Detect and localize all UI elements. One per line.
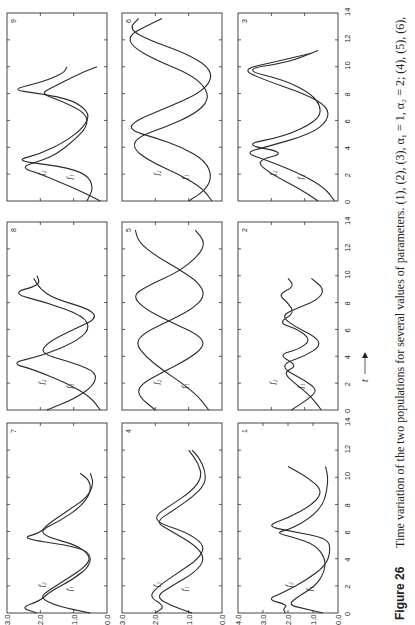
label-f1: f₁ [296, 383, 305, 388]
x-tick-label: 12 [343, 244, 352, 252]
label-f2: f₂ [152, 170, 161, 175]
label-f2: f₂ [268, 379, 277, 384]
t-axis-symbol: t [359, 379, 370, 382]
label-f1: f₁ [180, 383, 189, 388]
x-tick-label: 6 [343, 119, 352, 123]
panel-number: 4 [125, 429, 132, 433]
plot-frame [238, 13, 338, 201]
label-f1: f₁ [180, 586, 189, 591]
panel-6: 6f₁f₂ [122, 13, 222, 201]
series-f1 [130, 18, 212, 201]
plot-frame [238, 222, 338, 410]
x-tick-label: 10 [343, 472, 352, 480]
x-tick-label: 8 [343, 301, 352, 305]
series-f1 [248, 53, 335, 201]
y-tick-label: 3.0 [3, 615, 12, 625]
label-f2: f₂ [284, 582, 293, 587]
x-tick-label: 4 [343, 146, 352, 150]
x-tick-label: 2 [343, 382, 352, 386]
panel-number: 3 [241, 19, 248, 23]
x-tick-label: 10 [343, 270, 352, 278]
x-tick-label: 8 [343, 503, 352, 507]
label-f1: f₁ [296, 174, 305, 179]
plot-frame [122, 13, 222, 201]
panel-5: 5f₁f₂ [122, 222, 222, 410]
panel-number: 8 [10, 228, 17, 232]
plot-frame [7, 222, 107, 410]
panel-number: 1 [241, 429, 248, 433]
t-axis-arrow: t [359, 352, 370, 382]
y-tick-label: 0.0 [103, 615, 112, 625]
label-f1: f₁ [305, 586, 314, 591]
series-f2 [25, 67, 100, 201]
label-f1: f₁ [65, 586, 74, 591]
y-tick-label: 0.0 [334, 615, 343, 625]
panel-number: 9 [10, 19, 17, 23]
label-f2: f₂ [37, 582, 46, 587]
label-f2: f₂ [152, 379, 161, 384]
plot-frame [122, 222, 222, 410]
series-f2 [253, 51, 321, 201]
y-tick-label: 1.0 [70, 615, 79, 625]
x-tick-label: 12 [343, 445, 352, 453]
x-tick-label: 10 [343, 61, 352, 69]
y-tick-label: 0.0 [218, 615, 227, 625]
y-tick-label: 1.0 [185, 615, 194, 625]
panel-number: 6 [125, 19, 132, 23]
x-tick-label: 0 [343, 612, 352, 616]
x-tick-label: 2 [343, 173, 352, 177]
x-tick-label: 0 [343, 409, 352, 413]
x-tick-label: 2 [343, 585, 352, 589]
series-f2 [152, 450, 203, 613]
y-tick-label: 1.0 [309, 615, 318, 625]
y-tick-label: 3.0 [118, 615, 127, 625]
x-tick-label: 0 [343, 200, 352, 204]
y-tick-label: 2.0 [36, 615, 45, 625]
panel-7: 7f₁f₂0.01.02.03.0 [3, 423, 112, 625]
panel-3: 3f₁f₂02468101214 [238, 8, 352, 204]
y-tick-label: 4.0 [234, 615, 243, 625]
plot-frame [122, 423, 222, 613]
panel-4: 4f₁f₂0.01.02.03.0 [118, 423, 227, 625]
y-tick-label: 3.0 [259, 615, 268, 625]
series-f2 [25, 473, 93, 613]
arrow-head-icon [362, 352, 368, 358]
series-f2 [34, 278, 96, 410]
panel-number: 7 [10, 429, 17, 433]
panel-2: 2f₁f₂02468101214 [238, 217, 352, 413]
figure-26: 9f₁f₂6f₁f₂3f₁f₂024681012148f₁f₂5f₁f₂2f₁f… [0, 0, 415, 625]
x-tick-label: 12 [343, 35, 352, 43]
x-tick-label: 14 [343, 8, 352, 16]
x-tick-label: 14 [343, 217, 352, 225]
panel-number: 2 [241, 228, 248, 232]
figure-label: Figure 26 [393, 566, 407, 620]
y-tick-label: 2.0 [284, 615, 293, 625]
series-f1 [135, 230, 208, 410]
plot-frame [7, 13, 107, 201]
panel-9: 9f₁f₂ [7, 13, 107, 201]
panel-8: 8f₁f₂ [7, 222, 107, 410]
caption-text: Time variation of the two populations fo… [393, 17, 407, 548]
x-tick-label: 14 [343, 418, 352, 426]
figure-caption: Figure 26 Time variation of the two popu… [393, 17, 407, 620]
panel-number: 5 [125, 228, 132, 232]
x-tick-label: 8 [343, 92, 352, 96]
label-f2: f₂ [152, 582, 161, 587]
label-f2: f₂ [268, 170, 277, 175]
label-f1: f₁ [65, 383, 74, 388]
label-f2: f₂ [37, 170, 46, 175]
x-tick-label: 4 [343, 355, 352, 359]
label-f1: f₁ [180, 174, 189, 179]
x-tick-label: 4 [343, 558, 352, 562]
x-tick-label: 6 [343, 328, 352, 332]
label-f2: f₂ [37, 379, 46, 384]
label-f1: f₁ [65, 174, 74, 179]
y-tick-label: 2.0 [151, 615, 160, 625]
x-tick-label: 6 [343, 530, 352, 534]
panel-1: 1f₁f₂0.01.02.03.04.002468101214 [234, 418, 352, 625]
panels-grid: 9f₁f₂6f₁f₂3f₁f₂024681012148f₁f₂5f₁f₂2f₁f… [3, 8, 352, 625]
